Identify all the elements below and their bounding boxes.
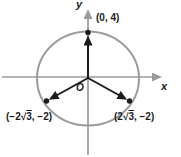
x-axis-label: x	[161, 81, 167, 92]
diagram-canvas	[0, 0, 181, 157]
point-label-right-open: (2	[114, 111, 123, 122]
point-label-left: (−2√3, −2)	[6, 112, 52, 122]
point-label-left-close: , −2)	[32, 111, 52, 122]
point-left-dot	[44, 98, 49, 103]
point-label-right: (2√3, −2)	[114, 112, 154, 122]
circle-vector-diagram: y x O (0, 4) (−2√3, −2) (2√3, −2)	[0, 0, 181, 157]
vector-to-right-point	[88, 78, 125, 99]
point-label-right-close: , −2)	[134, 111, 154, 122]
point-top-dot	[85, 30, 90, 35]
point-label-left-open: (−2	[6, 111, 21, 122]
origin-label: O	[76, 83, 84, 93]
y-axis-label: y	[76, 0, 82, 10]
point-right-dot	[127, 98, 132, 103]
point-label-top: (0, 4)	[96, 13, 119, 23]
